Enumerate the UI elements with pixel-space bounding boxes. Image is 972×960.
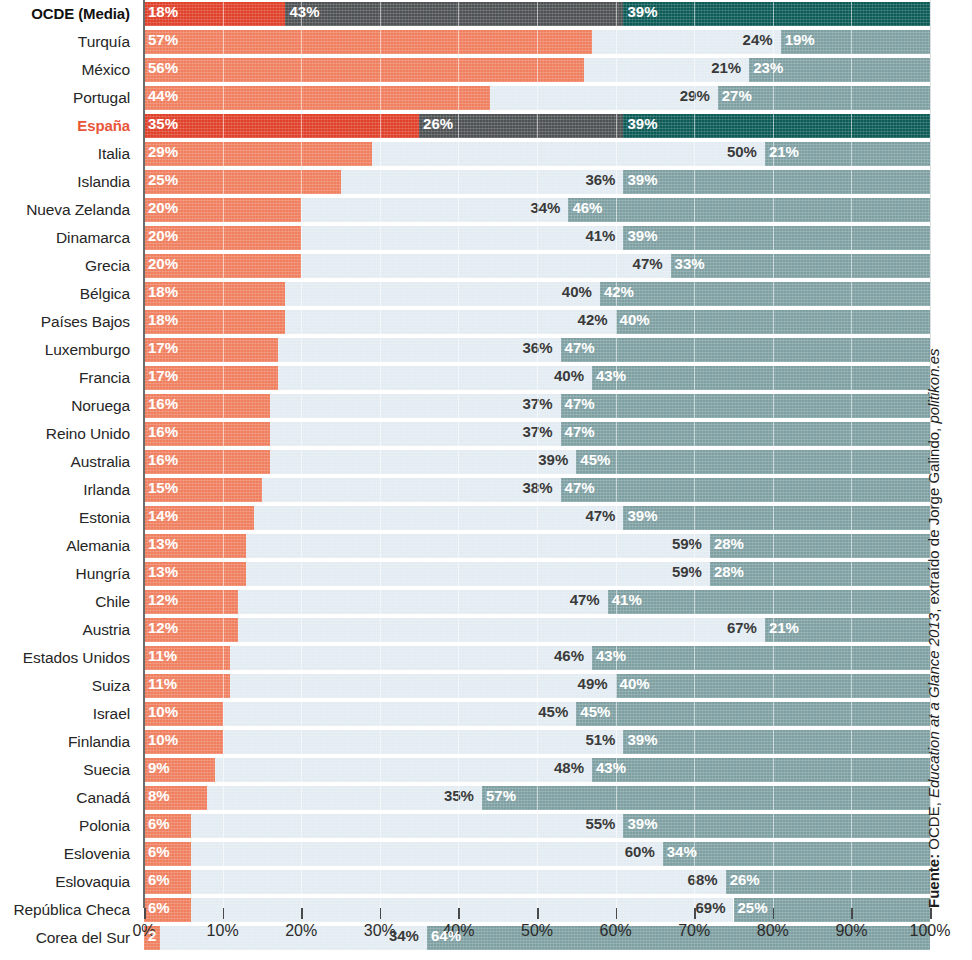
bar-track: 13%59%28% (144, 560, 930, 588)
row-label-portugal: Portugal (0, 84, 137, 112)
bar-track: 44%29%27% (144, 84, 930, 112)
bar-segment-1 (144, 30, 592, 54)
bar-value-2: 42% (285, 308, 615, 332)
bar-value-2: 67% (238, 616, 765, 640)
bar-value-1: 9% (148, 756, 170, 780)
bar-value-2: 38% (262, 476, 561, 500)
bar-value-3: 40% (620, 308, 650, 332)
row-label-finlandia: Finlandia (0, 728, 137, 756)
bar-segment-3 (482, 786, 930, 810)
bar-track: 9%48%43% (144, 756, 930, 784)
row-label-islandia: Islandia (0, 168, 137, 196)
bar-value-1: 2 (148, 924, 156, 948)
bar-value-2: 68% (191, 868, 725, 892)
bar-value-3: 28% (714, 532, 744, 556)
bar-value-2: 50% (372, 140, 765, 164)
x-tick-mark (773, 908, 775, 919)
bar-track: 11%46%43% (144, 644, 930, 672)
source-middle: , extraído de Jorge Galindo, (925, 424, 942, 613)
row-label-canad: Canadá (0, 784, 137, 812)
table-row: Estonia14%47%39% (0, 504, 932, 532)
bar-value-1: 57% (148, 28, 178, 52)
bar-value-2: 29% (490, 84, 718, 108)
bar-value-3: 45% (580, 448, 610, 472)
table-row: Australia16%39%45% (0, 448, 932, 476)
row-label-m-xico: México (0, 56, 137, 84)
bar-value-1: 35% (148, 112, 178, 136)
bar-value-1: 20% (148, 196, 178, 220)
table-row: Finlandia10%51%39% (0, 728, 932, 756)
bar-value-3: 39% (627, 504, 657, 528)
row-label-dinamarca: Dinamarca (0, 224, 137, 252)
table-row: México56%21%23% (0, 56, 932, 84)
bar-value-2: 21% (584, 56, 749, 80)
bar-value-3: 39% (627, 0, 657, 24)
bar-value-2: 48% (215, 756, 592, 780)
bar-segment-3 (623, 730, 930, 754)
table-row: Francia17%40%43% (0, 364, 932, 392)
bar-value-3: 21% (769, 616, 799, 640)
bar-value-3: 46% (572, 196, 602, 220)
row-label-chile: Chile (0, 588, 137, 616)
bar-value-1: 11% (148, 644, 177, 668)
bar-segment-3 (592, 646, 930, 670)
bar-track: 16%39%45% (144, 448, 930, 476)
bar-segment-1 (144, 58, 584, 82)
bar-value-1: 18% (148, 308, 178, 332)
bar-value-2: 47% (254, 504, 623, 528)
bar-value-2: 55% (191, 812, 623, 836)
table-row: Bélgica18%40%42% (0, 280, 932, 308)
row-label-australia: Australia (0, 448, 137, 476)
row-label-suecia: Suecia (0, 756, 137, 784)
bar-value-2: 45% (223, 700, 577, 724)
bar-value-1: 6% (148, 840, 170, 864)
bar-segment-3 (616, 674, 930, 698)
bar-value-1: 10% (148, 700, 178, 724)
bar-value-1: 16% (148, 392, 178, 416)
bar-value-1: 20% (148, 224, 178, 248)
bar-segment-3 (592, 758, 930, 782)
bar-value-2: 34% (301, 196, 568, 220)
bar-track: 20%41%39% (144, 224, 930, 252)
bar-value-3: 43% (596, 756, 626, 780)
bar-segment-3 (671, 254, 930, 278)
bar-value-3: 28% (714, 560, 744, 584)
table-row: Israel10%45%45% (0, 700, 932, 728)
bar-segment-3 (576, 450, 930, 474)
bar-track: 18%40%42% (144, 280, 930, 308)
bar-segment-3 (600, 282, 930, 306)
bar-value-1: 16% (148, 448, 178, 472)
chart-area: OCDE (Media)18%43%39%Turquía57%24%19%Méx… (0, 0, 932, 960)
table-row: Noruega16%37%47% (0, 392, 932, 420)
bar-value-2: 24% (592, 28, 781, 52)
bar-segment-3 (623, 170, 930, 194)
bar-value-1: 6% (148, 812, 170, 836)
bar-value-3: 19% (785, 28, 815, 52)
bar-value-2: 41% (301, 224, 623, 248)
bar-track: 10%45%45% (144, 700, 930, 728)
bar-track: 12%67%21% (144, 616, 930, 644)
bar-value-2: 37% (270, 420, 561, 444)
bar-value-2: 39% (270, 448, 577, 472)
row-label-irlanda: Irlanda (0, 476, 137, 504)
row-label-ocde-media: OCDE (Media) (0, 0, 137, 28)
table-row: Reino Unido16%37%47% (0, 420, 932, 448)
bar-value-2: 43% (289, 0, 319, 24)
bar-value-3: 25% (738, 896, 768, 920)
bar-segment-3 (592, 366, 930, 390)
table-row: España35%26%39% (0, 112, 932, 140)
table-row: Suecia9%48%43% (0, 756, 932, 784)
table-row: Dinamarca20%41%39% (0, 224, 932, 252)
row-label-nueva-zelanda: Nueva Zelanda (0, 196, 137, 224)
bar-value-3: 47% (565, 336, 595, 360)
row-label-grecia: Grecia (0, 252, 137, 280)
bar-value-2: 35% (207, 784, 482, 808)
bar-value-3: 21% (769, 140, 799, 164)
bar-track: 8%35%57% (144, 784, 930, 812)
row-label-turqu-a: Turquía (0, 28, 137, 56)
x-tick-mark (851, 908, 853, 919)
table-row: Nueva Zelanda20%34%46% (0, 196, 932, 224)
bar-value-1: 18% (148, 0, 178, 24)
row-label-italia: Italia (0, 140, 137, 168)
row-label-reino-unido: Reino Unido (0, 420, 137, 448)
